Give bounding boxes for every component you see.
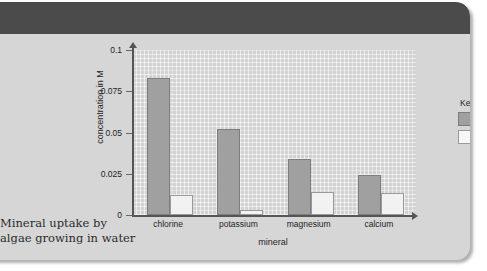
y-axis-arrow-icon: [129, 42, 137, 48]
y-tick: [126, 133, 132, 134]
x-axis-line: [132, 215, 414, 217]
bar-chlorine-in-pond-water: [170, 195, 193, 215]
x-category-label-potassium: potassium: [203, 219, 273, 229]
bar-group-calcium: [358, 50, 402, 215]
bar-potassium-in-pond-water: [240, 210, 263, 215]
legend-swatch-pond-water: [458, 130, 470, 144]
y-axis-title: concentration in M: [95, 47, 105, 167]
y-tick-label: 0.1: [62, 45, 122, 55]
y-tick-label: 0.05: [62, 128, 122, 138]
bar-group-potassium: [217, 50, 261, 215]
y-tick: [126, 91, 132, 92]
y-tick-label: 0.025: [62, 169, 122, 179]
chart-legend: Key inside cells in pond water: [458, 98, 470, 148]
page-header-band: [0, 2, 470, 34]
legend-title: Key: [460, 98, 470, 108]
y-tick-label: 0.075: [62, 86, 122, 96]
bar-group-magnesium: [288, 50, 332, 215]
y-tick-label: 0: [62, 210, 122, 220]
y-tick: [126, 50, 132, 51]
bar-calcium-inside-cells: [358, 175, 381, 215]
x-category-label-magnesium: magnesium: [274, 219, 344, 229]
x-category-label-chlorine: chlorine: [133, 219, 203, 229]
bar-calcium-in-pond-water: [381, 193, 404, 215]
legend-swatch-inside-cells: [458, 112, 470, 126]
y-tick: [126, 215, 132, 216]
bar-magnesium-inside-cells: [288, 159, 311, 215]
bar-potassium-inside-cells: [217, 129, 240, 215]
legend-item-pond-water: in pond water: [458, 130, 470, 144]
bar-magnesium-in-pond-water: [311, 192, 334, 215]
bar-chart: 00.0250.050.0750.1 concentration in M ch…: [126, 46, 416, 218]
screenshot-stage: Mineral uptake by algae growing in water…: [0, 0, 487, 271]
y-tick: [126, 174, 132, 175]
plot-area: 00.0250.050.0750.1 concentration in M ch…: [126, 46, 416, 218]
x-axis-title: mineral: [132, 237, 414, 247]
bar-group-chlorine: [147, 50, 191, 215]
legend-item-inside-cells: inside cells: [458, 112, 470, 126]
document-page: Mineral uptake by algae growing in water…: [0, 2, 470, 260]
bar-chlorine-inside-cells: [147, 78, 170, 215]
x-category-label-calcium: calcium: [344, 219, 414, 229]
bar-group: [133, 50, 414, 215]
